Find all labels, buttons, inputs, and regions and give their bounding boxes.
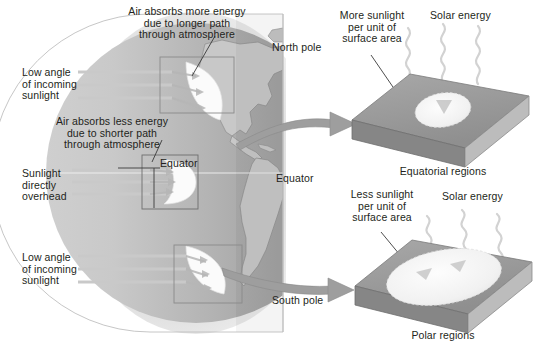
north-pole-label: North pole (272, 42, 322, 54)
diagram-root: Air absorbs more energy due to longer pa… (0, 0, 547, 346)
low-angle-south-label: Low angle of incoming sunlight (22, 252, 114, 287)
equator-path-note: Air absorbs less energy due to shorter p… (30, 116, 194, 151)
more-sunlight-note: More sunlight per unit of surface area (320, 10, 424, 45)
polar-regions-panel (355, 240, 532, 333)
solar-energy-label-equatorial: Solar energy (430, 10, 491, 22)
equator-label-left: Equator (160, 158, 198, 170)
solar-energy-label-polar: Solar energy (442, 191, 503, 203)
sunlight-overhead-label: Sunlight directly overhead (22, 168, 102, 203)
equator-label-right: Equator (276, 173, 314, 185)
equatorial-regions-panel (352, 74, 529, 167)
polar-regions-caption: Polar regions (378, 330, 508, 342)
high-latitude-north-note: Air absorbs more energy due to longer pa… (104, 6, 270, 41)
low-angle-north-label: Low angle of incoming sunlight (22, 67, 114, 102)
equatorial-regions-caption: Equatorial regions (378, 166, 508, 178)
less-sunlight-note: Less sunlight per unit of surface area (330, 189, 434, 224)
south-pole-label: South pole (272, 295, 323, 307)
